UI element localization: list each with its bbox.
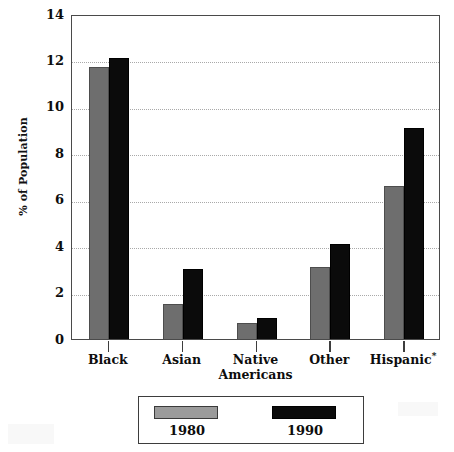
bar-group: [237, 16, 277, 339]
bar-1990: [404, 128, 424, 339]
x-tick: [403, 341, 405, 352]
plot-area: [71, 15, 440, 340]
gray-swatch: [154, 406, 218, 419]
x-tick: [108, 341, 110, 352]
plot-inner: [72, 16, 439, 339]
y-tick-label-2: 2: [26, 285, 64, 300]
legend-label-1980: 1980: [139, 423, 235, 438]
scan-artifact: [398, 402, 438, 416]
footnote-marker: *: [432, 351, 437, 361]
x-category-label: Hispanic*: [338, 352, 454, 367]
bar-1990: [183, 269, 203, 339]
y-tick-label-12: 12: [26, 53, 64, 68]
bar-1990: [109, 58, 129, 339]
bar-1980: [237, 323, 257, 339]
x-tick: [329, 341, 331, 352]
black-swatch: [272, 406, 336, 419]
x-tick: [182, 341, 184, 352]
bar-1980: [384, 186, 404, 339]
y-tick-label-0: 0: [26, 332, 64, 347]
legend-entry-1990: 1990: [257, 397, 363, 443]
legend-entry-1980: 1980: [139, 397, 245, 443]
y-tick-label-14: 14: [26, 7, 64, 22]
y-tick-label-6: 6: [26, 192, 64, 207]
bar-group: [310, 16, 350, 339]
bar-1990: [330, 244, 350, 339]
legend: 1980 1990: [138, 396, 364, 444]
bar-1990: [257, 318, 277, 339]
bar-group: [163, 16, 203, 339]
y-tick-label-10: 10: [26, 99, 64, 114]
legend-label-1990: 1990: [257, 423, 353, 438]
x-tick: [256, 341, 258, 352]
bar-group: [89, 16, 129, 339]
y-tick-label-4: 4: [26, 239, 64, 254]
bar-1980: [89, 67, 109, 339]
bar-1980: [310, 267, 330, 339]
scan-artifact: [8, 424, 54, 444]
bar-chart: % of Population 0 2 4 6 8 10 12 14 Black…: [0, 0, 454, 452]
bar-group: [384, 16, 424, 339]
bar-1980: [163, 304, 183, 339]
y-tick-label-8: 8: [26, 146, 64, 161]
